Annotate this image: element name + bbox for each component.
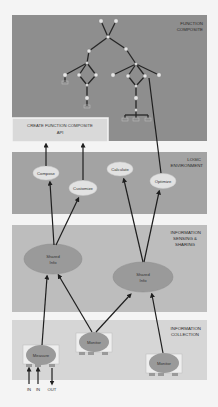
svg-text:Calculate: Calculate bbox=[111, 167, 129, 172]
collection-label-2: COLLECTION bbox=[171, 332, 199, 337]
svg-text:Info: Info bbox=[50, 260, 58, 265]
svg-text:Shared: Shared bbox=[46, 254, 60, 259]
collection-label-1: INFORMATION bbox=[171, 326, 201, 331]
collection-node-measure: Measure bbox=[23, 345, 59, 367]
information-collection-layer: INFORMATION COLLECTION Measure Monitor M… bbox=[12, 320, 207, 380]
logic-environment-layer: LOGIC ENVIRONMENT Compose Customize Calc… bbox=[12, 152, 207, 214]
sensing-label-2: SENSING & bbox=[173, 236, 197, 241]
api-box-line-1: CREATE FUNCTION COMPOSITE bbox=[27, 123, 93, 128]
shared-info-node-left: Shared Info bbox=[24, 244, 82, 274]
svg-text:Monitor: Monitor bbox=[87, 340, 102, 345]
collection-node-monitor-right: Monitor bbox=[146, 353, 182, 376]
svg-text:Compose: Compose bbox=[37, 171, 56, 176]
svg-text:Shared: Shared bbox=[136, 272, 150, 277]
create-function-composite-api-box: CREATE FUNCTION COMPOSITE API bbox=[12, 118, 108, 142]
io-labels: IN IN OUT bbox=[27, 387, 57, 392]
svg-text:Optimize: Optimize bbox=[155, 179, 172, 184]
io-label-in-2: IN bbox=[36, 387, 40, 392]
architecture-diagram: FUNCTION COMPOSITE bbox=[0, 0, 218, 407]
information-sensing-layer: INFORMATION SENSING & SHARING Shared Inf… bbox=[12, 225, 207, 312]
svg-text:Measure: Measure bbox=[33, 353, 50, 358]
logic-node-calculate: Calculate bbox=[107, 162, 133, 176]
logic-environment-label-2: ENVIRONMENT bbox=[171, 163, 204, 168]
api-box-line-2: API bbox=[57, 130, 64, 135]
logic-environment-label-1: LOGIC bbox=[187, 157, 201, 162]
svg-text:Monitor: Monitor bbox=[157, 361, 172, 366]
logic-node-compose: Compose bbox=[33, 166, 59, 180]
function-composite-label-1: FUNCTION bbox=[180, 21, 203, 26]
collection-node-monitor-center: Monitor bbox=[76, 332, 112, 355]
svg-text:Info: Info bbox=[140, 278, 148, 283]
sensing-label-3: SHARING bbox=[175, 242, 196, 247]
function-composite-label-2: COMPOSITE bbox=[177, 27, 203, 32]
logic-node-optimize: Optimize bbox=[150, 174, 176, 189]
logic-node-customize: Customize bbox=[69, 181, 97, 196]
io-label-out: OUT bbox=[48, 387, 57, 392]
io-label-in-1: IN bbox=[27, 387, 31, 392]
sensing-label-1: INFORMATION bbox=[171, 230, 201, 235]
shared-info-node-right: Shared Info bbox=[113, 262, 173, 292]
svg-text:Customize: Customize bbox=[73, 186, 93, 191]
